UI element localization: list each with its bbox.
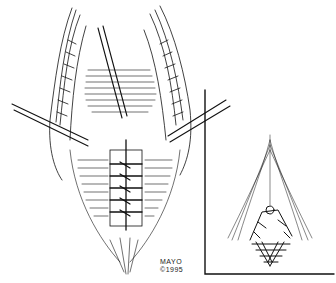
inset-frame — [205, 90, 334, 274]
inset-sutures — [250, 206, 292, 266]
right-muscle-flap — [144, 6, 191, 175]
illustration — [0, 0, 336, 283]
copyright-credit: MAYO ©1995 — [160, 258, 183, 274]
left-muscle-flap — [50, 8, 86, 180]
credit-line-1: MAYO — [160, 258, 183, 266]
retractors — [12, 26, 230, 146]
suture-closure — [110, 140, 142, 230]
inset-tissue — [228, 135, 312, 240]
credit-line-2: ©1995 — [160, 266, 183, 274]
